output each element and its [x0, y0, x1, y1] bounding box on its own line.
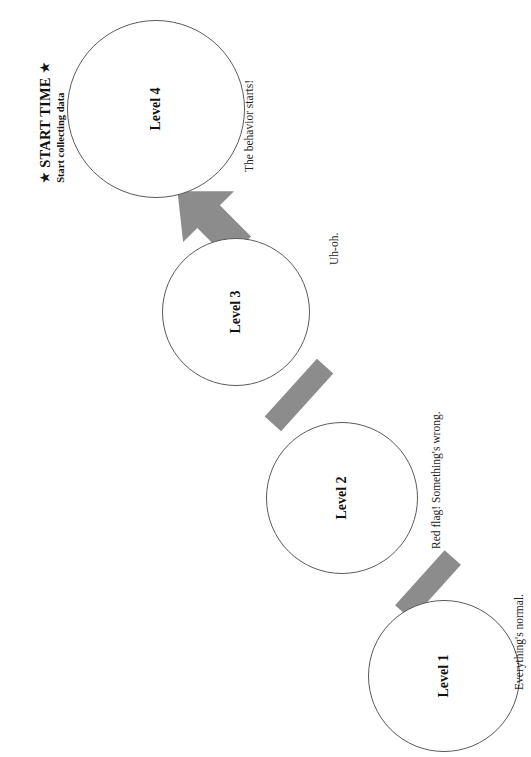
node-label-level-2: Level 2: [334, 476, 350, 519]
node-level-2[interactable]: Level 2: [266, 422, 418, 574]
page-subtitle: Start collecting data: [55, 3, 67, 183]
node-label-level-4: Level 4: [148, 87, 164, 130]
star-icon-left: ★: [38, 172, 52, 183]
heading-title-line: ★ START TIME ★: [37, 3, 54, 183]
node-level-1[interactable]: Level 1: [368, 600, 520, 752]
node-label-level-3: Level 3: [228, 290, 244, 333]
page-title: START TIME: [37, 77, 53, 168]
diagram-canvas: ★ START TIME ★ Start collecting data Lev…: [0, 0, 531, 757]
node-level-3[interactable]: Level 3: [162, 238, 310, 386]
annotation-level-4: The behavior starts!: [243, 80, 255, 172]
node-level-4[interactable]: Level 4: [67, 20, 245, 198]
diagram-heading: ★ START TIME ★ Start collecting data: [37, 3, 67, 183]
annotation-level-3: Uh-oh.: [328, 233, 340, 265]
annotation-level-2: Red flag! Something's wrong.: [430, 411, 442, 549]
star-icon-right: ★: [38, 62, 52, 73]
node-label-level-1: Level 1: [436, 654, 452, 697]
annotation-level-1: Everything's normal.: [513, 594, 525, 690]
